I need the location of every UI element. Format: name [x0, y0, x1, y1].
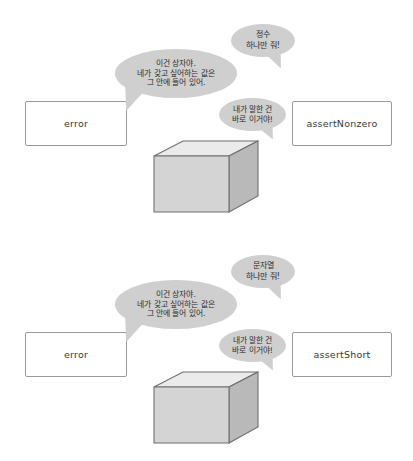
error-box-left-label: error: [64, 349, 88, 360]
diagram-panel-integer: error assertNonzero 정수 하나만 줘! 이건 상자야. 네가…: [0, 0, 413, 230]
speech-bubble-request-text: 문자열 하나만 줘!: [242, 261, 284, 281]
speech-bubble-request-text: 정수 하나만 줘!: [242, 30, 284, 50]
speech-bubble-explain: 이건 상자야. 네가 갖고 싶어하는 값은 그 안에 들어 있어.: [115, 280, 237, 329]
assert-box-right: assertShort: [292, 332, 392, 377]
speech-bubble-explain: 이건 상자야. 네가 갖고 싶어하는 값은 그 안에 들어 있어.: [115, 49, 237, 98]
assert-box-right: assertNonzero: [292, 101, 392, 146]
speech-bubble-point: 내가 말한 건 바로 이거야!: [219, 329, 286, 362]
speech-bubble-point-text: 내가 말한 건 바로 이거야!: [228, 105, 277, 125]
error-box-left-label: error: [64, 118, 88, 129]
assert-box-right-label: assertNonzero: [306, 118, 377, 129]
error-box-left: error: [25, 332, 127, 377]
error-box-left: error: [25, 101, 127, 146]
assert-box-right-label: assertShort: [314, 349, 371, 360]
speech-bubble-request: 문자열 하나만 줘!: [231, 255, 295, 288]
speech-bubble-point-text: 내가 말한 건 바로 이거야!: [228, 336, 277, 356]
speech-bubble-explain-text: 이건 상자야. 네가 갖고 싶어하는 값은 그 안에 들어 있어.: [133, 59, 218, 89]
speech-bubble-explain-text: 이건 상자야. 네가 갖고 싶어하는 값은 그 안에 들어 있어.: [133, 290, 218, 320]
speech-bubble-point: 내가 말한 건 바로 이거야!: [219, 98, 286, 131]
diagram-panel-string: error assertShort 문자열 하나만 줘! 이건 상자야. 네가 …: [0, 231, 413, 461]
cube-box-icon: [153, 371, 259, 445]
cube-box-icon: [153, 140, 259, 214]
speech-bubble-request: 정수 하나만 줘!: [231, 24, 295, 57]
